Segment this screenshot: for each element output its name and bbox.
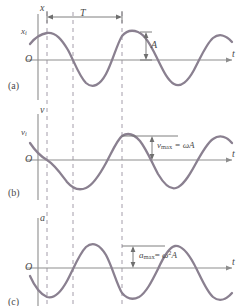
- axis-label-v: v: [40, 104, 44, 115]
- shm-figure: x xi O t T A (a) v vi O t vmax = ωA (b) …: [0, 0, 244, 306]
- origin-label-b: O: [25, 153, 32, 164]
- axis-label-x: x: [40, 2, 44, 13]
- initial-position-label: xi: [21, 26, 27, 36]
- panel-tag-c: (c): [8, 296, 19, 306]
- dashed-guide-lines: [47, 12, 122, 306]
- acceleration-curve: [30, 244, 232, 300]
- axis-label-a: a: [40, 212, 45, 223]
- vmax-equation-label: vmax = ωA: [157, 140, 195, 150]
- panel-b-axes: [26, 114, 232, 200]
- axis-label-t-a: t: [232, 48, 235, 59]
- axis-label-t-c: t: [232, 256, 235, 267]
- amax-equation-label: amax= ω2A: [139, 249, 177, 260]
- panel-c-axes: [26, 218, 232, 306]
- velocity-curve: [30, 134, 232, 189]
- axis-label-t-b: t: [232, 148, 235, 159]
- position-curve: [30, 31, 232, 86]
- panel-tag-a: (a): [8, 80, 19, 91]
- shm-plot-svg: [0, 0, 244, 306]
- origin-label-c: O: [25, 261, 32, 272]
- origin-label-a: O: [25, 53, 32, 64]
- initial-velocity-label: vi: [21, 127, 27, 137]
- amplitude-label: A: [151, 39, 157, 50]
- period-label: T: [80, 7, 86, 18]
- panel-tag-b: (b): [8, 187, 20, 198]
